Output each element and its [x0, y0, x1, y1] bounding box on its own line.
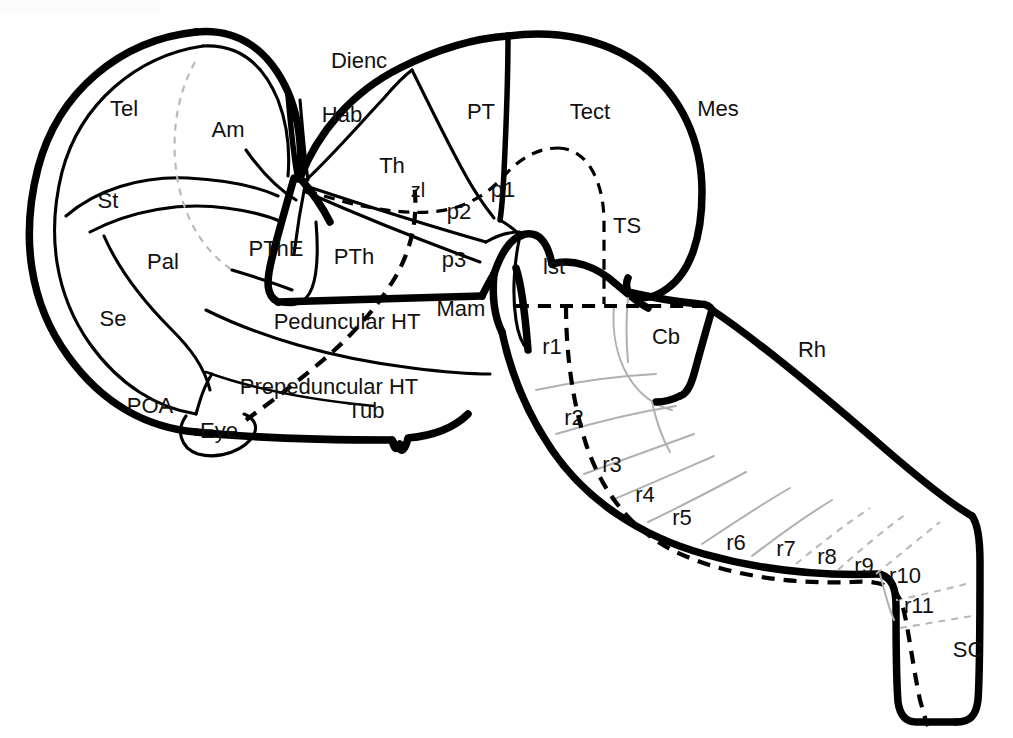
label-r8: r8 [817, 544, 837, 569]
label-pthe: PThE [248, 236, 303, 261]
label-zl: zl [411, 179, 425, 201]
label-r9: r9 [854, 553, 874, 578]
label-th: Th [379, 153, 405, 178]
label-r5: r5 [672, 505, 692, 530]
label-rh: Rh [798, 337, 826, 362]
label-tect: Tect [570, 99, 610, 124]
label-eye: Eye [200, 418, 238, 443]
mesencephalon-outline [508, 34, 702, 362]
label-poa: POA [127, 393, 174, 418]
label-r11: r11 [904, 593, 934, 618]
brain-diagram-canvas: Tel Am St Pal Se POA Eye PThE PTh Dienc … [0, 0, 1013, 738]
label-r7: r7 [776, 536, 796, 561]
pthe-region [232, 95, 317, 305]
label-p2: p2 [447, 199, 471, 224]
label-am: Am [212, 117, 245, 142]
corner-tint [0, 0, 160, 14]
label-p3: p3 [442, 247, 466, 272]
cerebellum-outline [614, 292, 712, 410]
label-mes: Mes [697, 96, 739, 121]
label-dienc: Dienc [331, 48, 387, 73]
label-peduncular-ht: Peduncular HT [274, 309, 421, 334]
label-pt: PT [467, 99, 495, 124]
label-pth: PTh [334, 244, 374, 269]
label-se: Se [100, 306, 127, 331]
label-st: St [98, 188, 119, 213]
label-sc: SC [953, 637, 984, 662]
label-r3: r3 [602, 452, 622, 477]
label-pal: Pal [147, 249, 179, 274]
telencephalon-outline [29, 32, 300, 432]
label-r4: r4 [635, 482, 655, 507]
label-p1: p1 [491, 177, 515, 202]
label-tel: Tel [110, 96, 138, 121]
label-cb: Cb [652, 324, 680, 349]
label-r2: r2 [564, 405, 584, 430]
label-ts: TS [613, 213, 641, 238]
rhombencephalon-outline [502, 268, 980, 722]
brain-schematic-figure: Tel Am St Pal Se POA Eye PThE PTh Dienc … [0, 0, 1013, 738]
label-hab: Hab [322, 102, 362, 127]
label-mam: Mam [437, 296, 486, 321]
label-tub: Tub [347, 398, 384, 423]
label-r6: r6 [726, 530, 746, 555]
label-r1: r1 [542, 334, 562, 359]
label-prepeduncular-ht: Prepeduncular HT [240, 374, 419, 399]
label-r10: r10 [889, 563, 921, 588]
label-lst: lst [543, 254, 565, 279]
region-labels: Tel Am St Pal Se POA Eye PThE PTh Dienc … [98, 48, 984, 662]
